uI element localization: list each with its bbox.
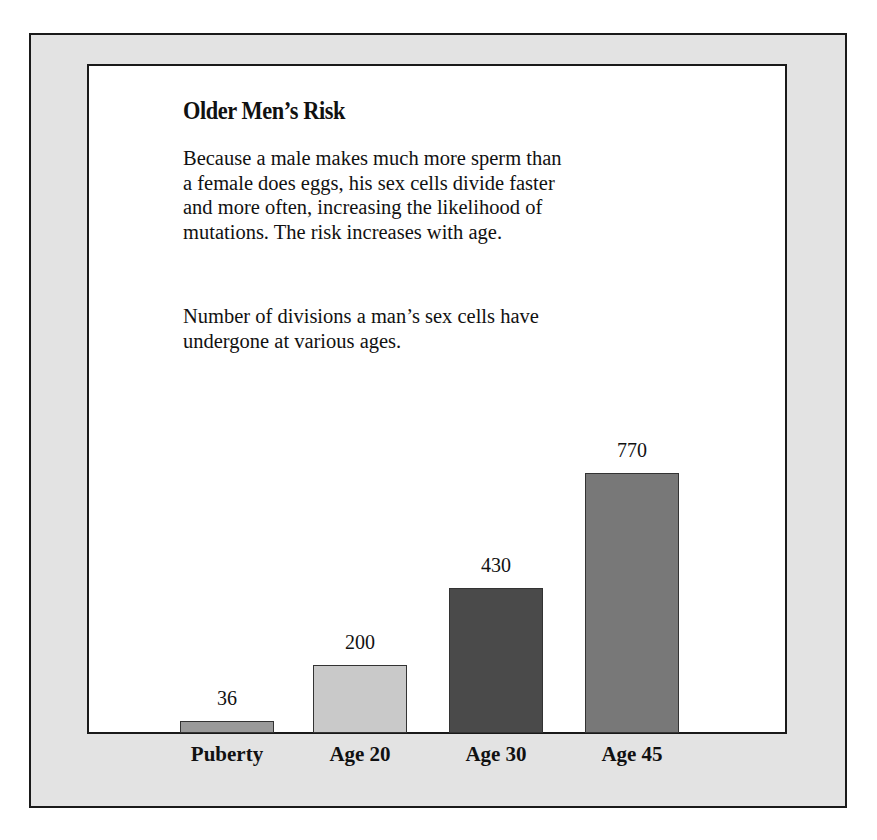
x-axis-category-label: Age 20 xyxy=(295,742,425,767)
bar-age-20 xyxy=(313,665,407,733)
description-text: Because a male makes much more sperm tha… xyxy=(183,146,743,244)
bar-value-label: 770 xyxy=(585,439,679,462)
bar-age-30 xyxy=(449,588,543,733)
caption-line: undergone at various ages. xyxy=(183,329,743,354)
caption-line: Number of divisions a man’s sex cells ha… xyxy=(183,304,743,329)
x-axis-category-label: Puberty xyxy=(162,742,292,767)
x-axis-category-label: Age 45 xyxy=(567,742,697,767)
chart-caption: Number of divisions a man’s sex cells ha… xyxy=(183,304,743,353)
bar-puberty xyxy=(180,721,274,733)
description-line: Because a male makes much more sperm tha… xyxy=(183,146,743,171)
bar-age-45 xyxy=(585,473,679,733)
description-line: a female does eggs, his sex cells divide… xyxy=(183,171,743,196)
bar-value-label: 36 xyxy=(180,687,274,710)
bar-value-label: 430 xyxy=(449,554,543,577)
chart-title: Older Men’s Risk xyxy=(183,96,345,126)
description-line: mutations. The risk increases with age. xyxy=(183,220,743,245)
bar-value-label: 200 xyxy=(313,631,407,654)
description-line: and more often, increasing the likelihoo… xyxy=(183,195,743,220)
x-axis-category-label: Age 30 xyxy=(431,742,561,767)
